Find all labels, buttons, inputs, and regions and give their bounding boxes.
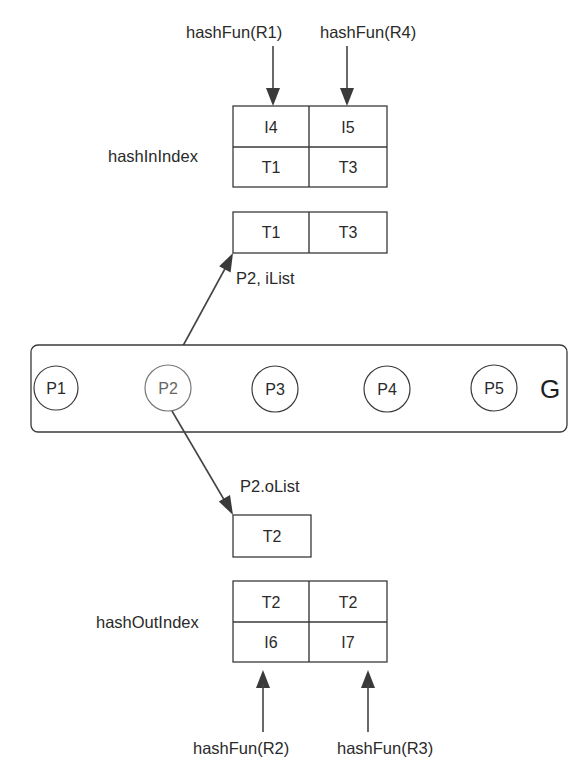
in-list: T1 T3 P2, iList bbox=[233, 212, 387, 287]
table-cell: I5 bbox=[341, 119, 354, 136]
arrow-down-icon bbox=[266, 88, 280, 106]
hash-out-index-table: hashOutIndex T2 T2 I6 I7 bbox=[96, 581, 387, 662]
table-cell: T3 bbox=[339, 159, 358, 176]
hash-in-index-table: hashInIndex I4 I5 T1 T3 bbox=[108, 106, 387, 187]
diagram-canvas: hashFun(R1) hashFun(R4) hashInIndex I4 I… bbox=[0, 0, 587, 778]
hash-out-inputs: hashFun(R2) hashFun(R3) bbox=[193, 670, 433, 757]
node-p1-label: P1 bbox=[46, 380, 66, 397]
list-cell: T3 bbox=[339, 224, 358, 241]
hash-fun-r3-label: hashFun(R3) bbox=[337, 739, 433, 757]
list-cell: T2 bbox=[263, 528, 282, 545]
graph-label: G bbox=[540, 374, 560, 404]
hash-fun-r4-label: hashFun(R4) bbox=[320, 23, 416, 41]
table-cell: I7 bbox=[341, 634, 354, 651]
node-p3-label: P3 bbox=[265, 381, 285, 398]
table-cell: I4 bbox=[264, 119, 277, 136]
out-list: P2.oList T2 bbox=[233, 477, 311, 557]
arrow-down-right-icon bbox=[219, 495, 233, 515]
arrow-down-icon bbox=[340, 88, 354, 106]
table-cell: I6 bbox=[264, 634, 277, 651]
out-list-label: P2.oList bbox=[240, 477, 300, 495]
node-p4-label: P4 bbox=[377, 381, 397, 398]
table-cell: T2 bbox=[339, 594, 358, 611]
in-list-frame bbox=[233, 212, 387, 253]
in-list-label: P2, iList bbox=[236, 269, 295, 287]
table-cell: T2 bbox=[262, 594, 281, 611]
hash-fun-r1-label: hashFun(R1) bbox=[186, 23, 282, 41]
graph-g: P1 P2 P3 P4 P5 G bbox=[31, 345, 567, 432]
hash-out-index-label: hashOutIndex bbox=[96, 613, 199, 631]
node-p5-label: P5 bbox=[484, 380, 504, 397]
arrow-up-right-icon bbox=[219, 253, 233, 273]
hash-fun-r2-label: hashFun(R2) bbox=[193, 739, 289, 757]
list-cell: T1 bbox=[262, 224, 281, 241]
hash-in-index-label: hashInIndex bbox=[108, 147, 199, 165]
table-cell: T1 bbox=[262, 159, 281, 176]
hash-in-inputs: hashFun(R1) hashFun(R4) bbox=[186, 23, 416, 106]
node-p2-label: P2 bbox=[158, 380, 178, 397]
